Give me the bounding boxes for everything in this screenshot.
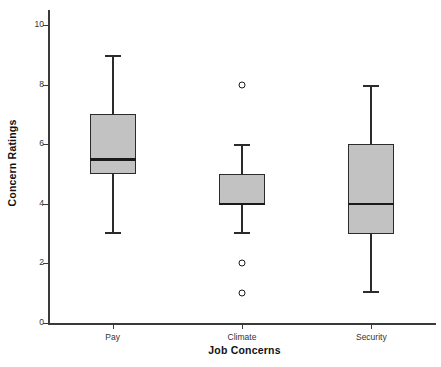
boxplot-figure: Concern Ratings 0246810 PayClimateSecuri… bbox=[0, 0, 441, 367]
x-tick-label-security: Security bbox=[356, 332, 387, 342]
y-axis-title-text: Concern Ratings bbox=[5, 119, 17, 206]
median-security bbox=[348, 203, 394, 206]
whisker-cap-upper-security bbox=[363, 85, 379, 87]
x-tick-mark-climate bbox=[242, 323, 243, 329]
x-tick-label-pay: Pay bbox=[105, 332, 120, 342]
whisker-lower-security bbox=[370, 234, 372, 294]
box-security bbox=[348, 144, 394, 233]
x-tick-mark-security bbox=[371, 323, 372, 329]
y-tick-label: 0 bbox=[39, 317, 44, 327]
x-tick-mark-pay bbox=[113, 323, 114, 329]
x-tick-label-climate: Climate bbox=[228, 332, 257, 342]
boxplot-security bbox=[48, 10, 436, 323]
y-tick-label: 2 bbox=[39, 257, 44, 267]
y-tick-label: 10 bbox=[35, 19, 44, 29]
y-tick-label: 6 bbox=[39, 138, 44, 148]
y-tick-label: 4 bbox=[39, 198, 44, 208]
whisker-cap-lower-security bbox=[363, 291, 379, 293]
x-axis-title: Job Concerns bbox=[48, 344, 441, 356]
whisker-upper-security bbox=[370, 85, 372, 145]
plot-area: 0246810 PayClimateSecurity bbox=[48, 10, 436, 323]
y-tick-label: 8 bbox=[39, 79, 44, 89]
y-axis-title: Concern Ratings bbox=[0, 0, 22, 325]
